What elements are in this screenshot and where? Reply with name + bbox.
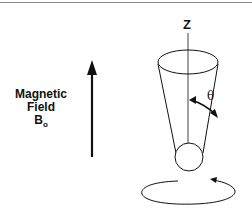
angle-theta-label: θ [207,89,214,103]
z-axis-label: Z [183,17,191,32]
magnetic-field-arrow [87,60,97,157]
cone-left-side [158,64,176,153]
nucleus-sphere [175,143,203,171]
cone-right-side [203,64,218,153]
precession-circle-arrow [142,177,235,204]
precession-diagram [0,0,252,217]
